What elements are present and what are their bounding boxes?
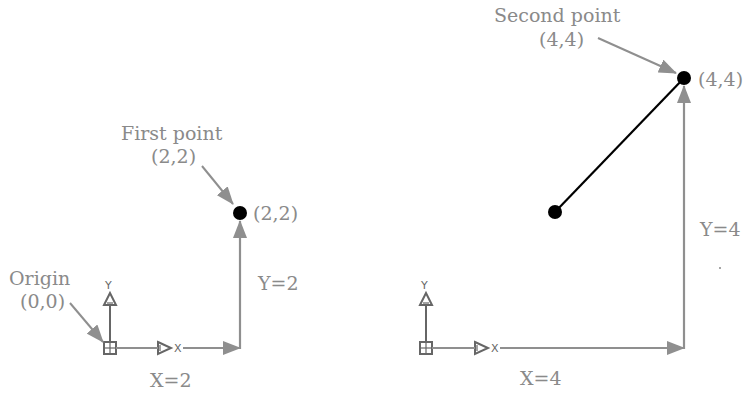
first-point-marker bbox=[548, 205, 562, 219]
origin-leader-arrow bbox=[70, 303, 103, 342]
first-point-coords-label: (2,2) bbox=[253, 202, 298, 224]
second-point-marker bbox=[677, 71, 691, 85]
first-point-leader-arrow bbox=[202, 166, 233, 204]
drawn-line bbox=[555, 78, 684, 212]
ucs-y-label: Y bbox=[420, 279, 428, 292]
ucs-icon bbox=[420, 293, 488, 354]
y-distance-label: Y=4 bbox=[699, 218, 741, 240]
origin-label: Origin bbox=[9, 267, 70, 289]
ucs-x-label: X bbox=[174, 342, 182, 355]
first-point-callout-coords: (2,2) bbox=[151, 145, 196, 167]
x-distance-label: X=4 bbox=[520, 367, 562, 389]
ucs-icon bbox=[104, 293, 171, 354]
first-point-marker bbox=[233, 206, 247, 220]
second-point-callout-coords: (4,4) bbox=[539, 28, 584, 50]
x-distance-label: X=2 bbox=[150, 369, 192, 391]
first-point-label: First point bbox=[121, 122, 223, 144]
ucs-y-label: Y bbox=[104, 279, 112, 292]
stray-dot bbox=[719, 267, 721, 269]
right-diagram: Y X (4,4) Second point (4,4) X=4 Y=4 bbox=[420, 4, 743, 389]
second-point-label: Second point bbox=[494, 4, 621, 26]
ucs-x-label: X bbox=[491, 342, 499, 355]
y-distance-label: Y=2 bbox=[257, 272, 299, 294]
coordinate-diagram: Y X (2,2) First point (2,2) Origin (0,0)… bbox=[0, 0, 753, 406]
left-diagram: Y X (2,2) First point (2,2) Origin (0,0)… bbox=[9, 122, 299, 391]
second-point-leader-arrow bbox=[598, 38, 676, 73]
origin-coords-label: (0,0) bbox=[20, 290, 65, 312]
second-point-coords-label: (4,4) bbox=[698, 68, 743, 90]
